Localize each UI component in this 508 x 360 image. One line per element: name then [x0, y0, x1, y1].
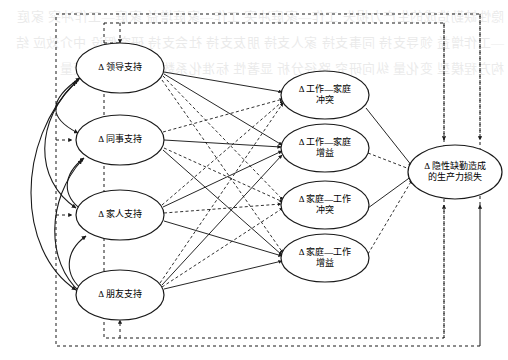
- corr-coworker-friend: [55, 160, 82, 292]
- edge-wfe-to-outcome: [368, 153, 412, 170]
- node-label-wfe-line2: 增益: [316, 147, 334, 158]
- node-label-friend-support-line1: Δ 朋友支持: [98, 288, 142, 299]
- edge-coworker-to-fwc: [164, 148, 283, 202]
- node-presenteeism-productivity-loss[interactable]: Δ 隐性缺勤造成的生产力损失: [408, 145, 502, 199]
- node-label-fwc-line2: 冲突: [316, 204, 334, 215]
- node-label-family-support-line1: Δ 家人支持: [98, 208, 142, 219]
- edge-family-to-fwc: [164, 204, 281, 213]
- node-coworker-support[interactable]: Δ 同事支持: [76, 115, 164, 165]
- edge-friend-to-wfc: [160, 103, 283, 283]
- node-label-presenteeism-productivity-loss-line1: Δ 隐性缺勤造成: [424, 160, 486, 171]
- node-label-presenteeism-productivity-loss-line2: 的生产力损失: [428, 171, 482, 182]
- node-label-wfc-line2: 冲突: [316, 94, 334, 105]
- node-family-support[interactable]: Δ 家人支持: [76, 190, 164, 240]
- edge-leader-to-fwe: [162, 80, 283, 253]
- edge-coworker-to-wfe: [164, 140, 281, 147]
- node-label-fwe-line1: Δ 家庭—工作: [299, 246, 352, 257]
- edge-leader-to-wfc: [164, 72, 282, 92]
- node-leader-support[interactable]: Δ 领导支持: [76, 43, 164, 93]
- edge-fwe-to-outcome: [368, 180, 412, 254]
- path-diagram-figure: 隐性缺勤造成的生产力损失 工作—家庭冲突 工作—家庭增益 家庭—工作冲突 家庭—…: [0, 0, 508, 360]
- node-fwe[interactable]: Δ 家庭—工作增益: [281, 234, 369, 282]
- node-label-wfc-line1: Δ 工作—家庭: [299, 83, 352, 94]
- node-fwc[interactable]: Δ 家庭—工作冲突: [281, 181, 369, 229]
- node-label-wfe-line1: Δ 工作—家庭: [299, 136, 352, 147]
- edge-coworker-to-wfc: [163, 99, 283, 132]
- correlation-arcs-layer: [31, 78, 86, 292]
- node-friend-support[interactable]: Δ 朋友支持: [76, 270, 164, 320]
- corr-leader-coworker: [56, 78, 80, 133]
- node-label-leader-support-line1: Δ 领导支持: [98, 61, 142, 72]
- edge-family-to-wfc: [162, 101, 283, 205]
- diagram-canvas: Δ 领导支持Δ 同事支持Δ 家人支持Δ 朋友支持Δ 工作—家庭冲突Δ 工作—家庭…: [0, 0, 508, 360]
- node-label-coworker-support-line1: Δ 同事支持: [98, 133, 142, 144]
- edge-fwc-to-outcome: [368, 176, 412, 208]
- nodes-layer: Δ 领导支持Δ 同事支持Δ 家人支持Δ 朋友支持Δ 工作—家庭冲突Δ 工作—家庭…: [76, 43, 502, 320]
- node-label-fwc-line1: Δ 家庭—工作: [299, 193, 352, 204]
- node-wfe[interactable]: Δ 工作—家庭增益: [281, 124, 369, 172]
- edge-leader-to-fwc: [163, 76, 283, 200]
- edge-wfc-to-outcome: [366, 108, 412, 166]
- node-label-fwe-line2: 增益: [316, 257, 334, 268]
- edge-family-to-wfe: [163, 151, 282, 207]
- edge-friend-to-fwe: [164, 261, 282, 289]
- edge-leader-to-wfe: [164, 74, 282, 145]
- node-wfc[interactable]: Δ 工作—家庭冲突: [281, 71, 369, 119]
